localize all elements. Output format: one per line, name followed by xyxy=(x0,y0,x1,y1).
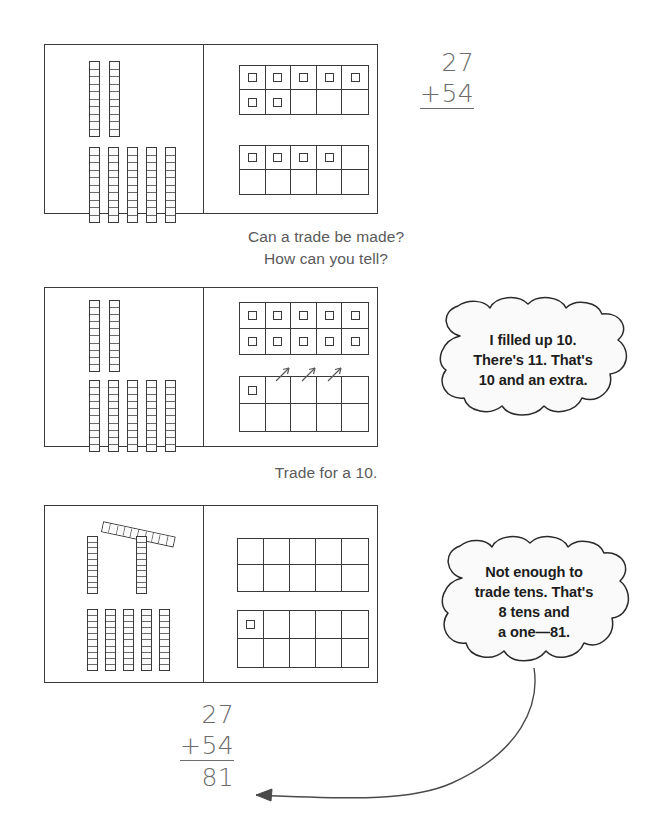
rod-segment xyxy=(109,395,118,402)
ten-frame-cell xyxy=(238,639,264,667)
rod-segment xyxy=(90,100,99,108)
rod-segment xyxy=(128,201,137,209)
top-sum: 27 +54 xyxy=(420,48,474,109)
caption-can-a-trade: Can a trade be made? How can you tell? xyxy=(0,226,652,271)
rod-segment xyxy=(128,416,137,423)
rod-segment xyxy=(147,201,156,209)
rod-segment xyxy=(88,665,97,670)
rod-segment xyxy=(110,344,119,351)
tens-rod xyxy=(87,609,98,671)
rod-segment xyxy=(166,445,175,451)
ten-frame-top xyxy=(239,65,369,115)
unit-cube xyxy=(325,153,334,162)
ten-frame-cell xyxy=(342,377,368,404)
rod-segment xyxy=(110,336,119,343)
ten-frame-cell xyxy=(266,404,292,431)
tens-rod xyxy=(146,147,157,223)
ten-frame-cell xyxy=(316,539,342,565)
rod-segment xyxy=(128,424,137,431)
ten-frame-cell xyxy=(342,170,368,194)
rod-segment xyxy=(147,388,156,395)
ten-frame-cell xyxy=(290,611,316,639)
ten-frame-cell xyxy=(317,66,343,90)
ten-frame-cell xyxy=(317,303,343,329)
rod-segment xyxy=(166,201,175,209)
unit-cube xyxy=(273,311,282,320)
rod-segment xyxy=(166,208,175,216)
rod-segment xyxy=(90,130,99,137)
rod-segment xyxy=(166,409,175,416)
rod-segment xyxy=(90,402,99,409)
rod-segment xyxy=(90,163,99,171)
ten-frame-cell xyxy=(317,404,343,431)
unit-cube xyxy=(248,311,257,320)
rod-segment xyxy=(110,70,119,78)
tens-rod xyxy=(108,380,119,452)
bottom-sum: 27 +54 81 xyxy=(180,700,234,793)
bubble-not-enough-to-trade: Not enough to trade tens. That's 8 tens … xyxy=(434,534,634,670)
rod-segment xyxy=(90,416,99,423)
rod-segment xyxy=(128,445,137,451)
rod-segment xyxy=(147,178,156,186)
rod-segment xyxy=(109,438,118,445)
rod-segment xyxy=(166,216,175,223)
ten-frame-cell xyxy=(316,611,342,639)
ten-frame-cell xyxy=(240,329,266,355)
rod-segment xyxy=(166,171,175,179)
unit-cube xyxy=(248,73,257,82)
unit-cube xyxy=(351,337,360,346)
rod-segment xyxy=(90,156,99,164)
rod-segment xyxy=(90,445,99,451)
bubble-filled-up-ten: I filled up 10. There's 11. That's 10 an… xyxy=(432,296,634,424)
rod-segment xyxy=(166,156,175,164)
panel-3-tens-area xyxy=(45,506,203,682)
rod-segment xyxy=(90,438,99,445)
tens-rod xyxy=(127,380,138,452)
tens-rod xyxy=(89,61,100,137)
tens-rod xyxy=(109,61,120,137)
ten-frame-cell xyxy=(290,565,316,591)
rod-segment xyxy=(110,329,119,336)
ten-frame-cell xyxy=(342,329,368,355)
rod-segment xyxy=(147,424,156,431)
ten-frame-cell xyxy=(342,303,368,329)
rod-segment xyxy=(90,85,99,93)
ten-frame-cell xyxy=(266,329,292,355)
ten-frame-cell xyxy=(317,377,343,404)
ten-frame-cell xyxy=(238,611,264,639)
rod-segment xyxy=(128,216,137,223)
rod-segment xyxy=(166,193,175,201)
tens-rod xyxy=(89,300,100,372)
rod-segment xyxy=(110,301,119,308)
ten-frame-cell xyxy=(342,565,368,591)
rod-segment xyxy=(166,178,175,186)
ten-frame-cell xyxy=(266,170,292,194)
ten-frame-cell xyxy=(342,539,368,565)
rod-segment xyxy=(109,388,118,395)
rod-segment xyxy=(90,178,99,186)
ten-frame-cell xyxy=(264,565,290,591)
rod-segment xyxy=(90,344,99,351)
rod-segment xyxy=(166,388,175,395)
rod-segment xyxy=(109,424,118,431)
ten-frame-cell xyxy=(240,170,266,194)
rod-segment xyxy=(147,402,156,409)
ten-frame-cell xyxy=(264,639,290,667)
rod-segment xyxy=(166,148,175,156)
panel-3-ones-area xyxy=(203,506,377,682)
rod-segment xyxy=(166,163,175,171)
rod-segment xyxy=(110,315,119,322)
pointer-curve xyxy=(256,668,535,798)
tens-rod xyxy=(136,536,147,594)
bubble-line: trade tens. That's xyxy=(475,582,593,602)
rod-segment xyxy=(110,365,119,371)
rod-segment xyxy=(110,85,119,93)
rod-segment xyxy=(147,438,156,445)
ten-frame-cell xyxy=(291,329,317,355)
panel-2-ones-area xyxy=(203,288,377,446)
rod-segment xyxy=(90,381,99,388)
rod-segment xyxy=(109,163,118,171)
panel-1-tens-area xyxy=(45,45,203,213)
ten-frame-cell xyxy=(317,90,343,114)
rod-segment xyxy=(90,365,99,371)
